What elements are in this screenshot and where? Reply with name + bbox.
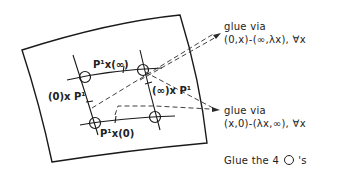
annotation-glue-top-formula: (0,x)-(∞,λx), ∀x bbox=[224, 33, 306, 46]
annotation-glue-top-title: glue via bbox=[224, 20, 306, 33]
label-infinity-x-p1: (∞)x P¹ bbox=[152, 85, 191, 96]
annotation-glue-bottom-formula: (x,0)-(λx,∞), ∀x bbox=[224, 117, 306, 130]
glue-circles-prefix: Glue the 4 bbox=[224, 155, 279, 166]
annotation-glue-circles: Glue the 4 's bbox=[224, 154, 307, 167]
arrowhead-top bbox=[213, 33, 221, 39]
glue-dash-bottom-1 bbox=[115, 106, 210, 115]
annotation-glue-bottom-title: glue via bbox=[224, 104, 306, 117]
label-p1-x-infinity: P¹x(∞) bbox=[93, 59, 129, 70]
tick-bottom-curve bbox=[115, 116, 116, 123]
annotation-glue-top: glue via (0,x)-(∞,λx), ∀x bbox=[224, 20, 306, 46]
arrowhead-bottom bbox=[212, 107, 220, 112]
glue-dash-top-2 bbox=[140, 36, 218, 80]
label-zero-x-p1: (0)x P¹ bbox=[48, 91, 86, 102]
label-p1-x-zero: P¹x(0) bbox=[100, 128, 134, 139]
circle-icon bbox=[284, 155, 294, 165]
annotation-glue-bottom: glue via (x,0)-(λx,∞), ∀x bbox=[224, 104, 306, 130]
point-circle-top-right bbox=[138, 65, 149, 76]
glue-dash-top-1 bbox=[92, 33, 215, 108]
glue-circles-suffix: 's bbox=[298, 155, 307, 166]
tick-left-curve bbox=[86, 101, 93, 102]
